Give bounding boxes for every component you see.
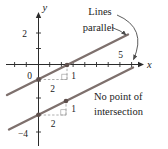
x-tick-label-5: 5: [118, 50, 123, 60]
annotation-no-intersection-line2: intersection: [94, 106, 144, 117]
point-lower-run-rise: [64, 99, 69, 104]
y-tick-label-neg4: −4: [18, 129, 28, 139]
annotation-lines-parallel-line1: Lines: [88, 6, 111, 17]
run-label-upper: 2: [50, 84, 55, 94]
x-axis-arrow-icon: [138, 62, 144, 67]
rise-label-upper: 1: [71, 71, 76, 81]
annotation-lines-parallel-line2: parallel: [83, 22, 115, 33]
y-axis-label: y: [42, 2, 48, 13]
annotation-no-intersection-line1: No point of: [94, 91, 143, 102]
right-angle-marker-upper: [62, 74, 67, 79]
plot-svg: y x 0 5 2 −4 2 1 2 1 Lines parallel No p…: [0, 0, 168, 149]
y-tick-label-2: 2: [22, 29, 27, 39]
figure-parallel-lines: y x 0 5 2 −4 2 1 2 1 Lines parallel No p…: [0, 0, 168, 149]
y-axis-arrow-icon: [36, 12, 41, 18]
rise-label-lower: 1: [71, 104, 76, 114]
point-upper-x-intercept: [65, 63, 70, 68]
right-angle-marker-lower: [61, 110, 66, 115]
x-axis-label: x: [146, 59, 152, 70]
point-lower-y-intercept: [36, 113, 41, 118]
origin-label: 0: [27, 71, 32, 81]
run-label-lower: 2: [51, 119, 56, 129]
point-upper-y-intercept: [36, 77, 41, 82]
